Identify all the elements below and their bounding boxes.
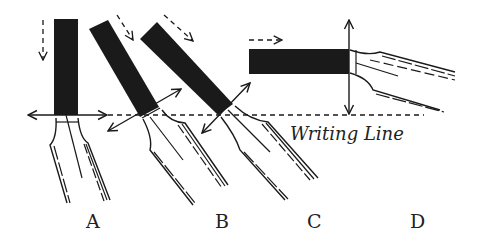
pen-angle-diagram: Writing Line A B C D bbox=[0, 0, 480, 248]
label-d: D bbox=[410, 210, 425, 232]
nib-a bbox=[28, 19, 110, 203]
label-c: C bbox=[307, 210, 322, 232]
label-b: B bbox=[215, 210, 229, 232]
nib-d bbox=[249, 20, 455, 114]
stroke-direction-arrow-icon bbox=[117, 15, 133, 40]
label-a: A bbox=[85, 210, 100, 232]
nib-a-edge bbox=[54, 19, 78, 115]
writing-line-label: Writing Line bbox=[290, 123, 404, 144]
nib-d-edge bbox=[249, 49, 349, 74]
